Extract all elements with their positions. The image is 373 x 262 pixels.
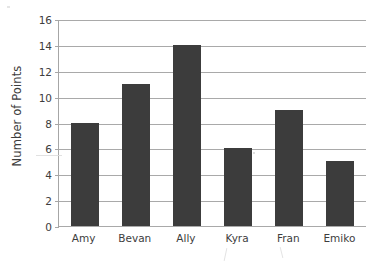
y-axis-tick-label: 16 bbox=[39, 14, 52, 26]
y-axis-tick-label: 4 bbox=[45, 169, 52, 181]
bar bbox=[275, 110, 303, 226]
bar bbox=[224, 148, 252, 226]
x-axis-tick-label: Bevan bbox=[118, 232, 151, 244]
x-axis-tick-label: Emiko bbox=[323, 232, 355, 244]
x-axis-tick-labels: AmyBevanAllyKyraFranEmiko bbox=[58, 232, 365, 252]
x-axis-tick-label: Ally bbox=[176, 232, 195, 244]
x-axis-tick-label: Kyra bbox=[226, 232, 249, 244]
y-axis-tick-label: 12 bbox=[39, 66, 52, 78]
bar bbox=[122, 84, 150, 226]
y-axis-tick-label: 0 bbox=[45, 221, 52, 233]
x-axis-tick-label: Amy bbox=[72, 232, 96, 244]
y-axis-tick-label: 14 bbox=[39, 40, 52, 52]
plot-area bbox=[58, 20, 366, 227]
bars-group bbox=[59, 20, 366, 227]
y-axis-title-text: Number of Points bbox=[10, 66, 24, 167]
y-axis-tick-mark bbox=[55, 227, 59, 228]
bar-chart-figure: Number of Points 0246810121416 AmyBevanA… bbox=[0, 0, 373, 262]
y-axis-tick-label: 8 bbox=[45, 118, 52, 130]
y-axis-tick-label: 2 bbox=[45, 195, 52, 207]
y-axis-tick-label: 6 bbox=[45, 143, 52, 155]
x-axis-tick-label: Fran bbox=[277, 232, 300, 244]
bar bbox=[326, 161, 354, 226]
x-axis-baseline bbox=[59, 226, 366, 227]
y-axis-tick-labels: 0246810121416 bbox=[28, 20, 52, 227]
bar bbox=[173, 45, 201, 226]
scan-artifact-dot bbox=[7, 6, 10, 8]
y-axis-tick-label: 10 bbox=[39, 92, 52, 104]
bar bbox=[71, 123, 99, 227]
